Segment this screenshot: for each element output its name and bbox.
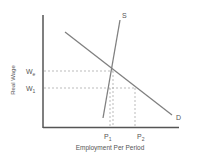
w1-tick-label: W1 bbox=[26, 85, 36, 94]
y-axis-title: Real Wage bbox=[10, 65, 16, 95]
p2-tick-label: P2 bbox=[137, 133, 145, 142]
we-tick-label: We bbox=[26, 68, 36, 77]
supply-label: S bbox=[122, 12, 127, 19]
p1-tick-label: P1 bbox=[104, 133, 112, 142]
demand-label: D bbox=[176, 114, 181, 121]
demand-curve bbox=[65, 32, 172, 115]
labor-market-chart: S D We W1 P1 P2 Employment Per Period Re… bbox=[0, 0, 197, 159]
supply-curve bbox=[103, 20, 120, 118]
x-axis-title: Employment Per Period bbox=[76, 144, 145, 152]
